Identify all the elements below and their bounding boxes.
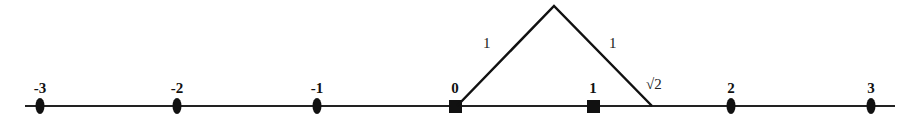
ellipse-marker-icon [173, 98, 182, 114]
tick-label: -3 [34, 80, 47, 96]
square-marker-icon [587, 100, 600, 113]
tick-label: 2 [727, 80, 735, 96]
tick-label: -1 [311, 80, 324, 96]
sqrt-two-label: √2 [646, 76, 662, 92]
tick-label: 1 [589, 80, 597, 96]
number-line-diagram: -3-2-10123 1 1 √2 [0, 0, 904, 129]
tick-label: 3 [867, 80, 875, 96]
ellipse-marker-icon [313, 98, 322, 114]
ellipse-marker-icon [727, 98, 736, 114]
tick-labels: -3-2-10123 [34, 80, 875, 96]
ellipse-marker-icon [867, 98, 876, 114]
left-leg-length-label: 1 [483, 35, 491, 51]
tick-label: 0 [451, 80, 459, 96]
right-triangle-legs [457, 6, 652, 106]
right-leg-length-label: 1 [609, 35, 617, 51]
tick-label: -2 [171, 80, 184, 96]
ellipse-marker-icon [36, 98, 45, 114]
